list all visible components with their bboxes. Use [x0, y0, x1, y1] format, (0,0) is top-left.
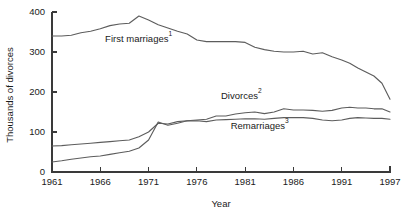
x-tick-label-1976: 1976 [186, 176, 207, 187]
y-tick-labels-group: 0100200300400 [29, 6, 45, 177]
annotation-divorces: Divorces2 [221, 87, 262, 102]
x-axis-title: Year [211, 198, 230, 209]
x-tick-labels-group: 19611966197119761981198619911997 [41, 176, 400, 187]
chart-container: 0100200300400 19611966197119761981198619… [0, 0, 404, 212]
y-tick-label-200: 200 [29, 86, 45, 97]
y-tick-label-400: 400 [29, 6, 45, 17]
x-tick-label-1986: 1986 [283, 176, 304, 187]
series-annotations-group: First marriages1Divorces2Remarriages3 [105, 29, 289, 131]
x-tick-label-1961: 1961 [41, 176, 62, 187]
x-tick-label-1966: 1966 [90, 176, 111, 187]
annotation-first-marriages: First marriages1 [105, 29, 172, 44]
series-line-remarriages [52, 118, 390, 146]
series-line-divorces [52, 107, 390, 162]
y-tick-label-100: 100 [29, 126, 45, 137]
x-tick-label-1997: 1997 [379, 176, 400, 187]
x-tick-label-1971: 1971 [138, 176, 159, 187]
y-axis-title: Thousands of divorces [4, 47, 15, 143]
x-tick-label-1991: 1991 [331, 176, 352, 187]
line-chart-svg: 0100200300400 19611966197119761981198619… [0, 0, 404, 212]
y-tick-label-300: 300 [29, 46, 45, 57]
x-tick-label-1981: 1981 [235, 176, 256, 187]
series-line-first-marriages [52, 16, 390, 99]
series-lines-group [52, 16, 390, 162]
